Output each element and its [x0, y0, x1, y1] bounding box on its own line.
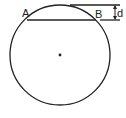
- circle-chord-diagram: A B d: [0, 0, 126, 118]
- label-b: B: [95, 8, 102, 20]
- label-d: d: [117, 7, 123, 19]
- circle-center-dot: [59, 54, 62, 57]
- label-a: A: [22, 7, 30, 19]
